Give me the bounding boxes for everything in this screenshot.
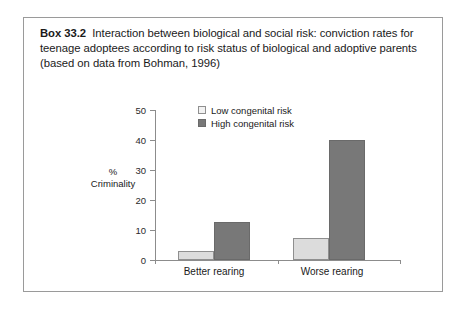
y-axis-line [155,110,156,261]
y-tick-10 [150,230,155,231]
legend-label-high-risk: High congenital risk [211,118,294,129]
y-axis-title-line1: % [78,166,148,178]
bar-better-rearing-low-risk [178,251,214,260]
bar-chart: 0 10 20 30 40 50 Better rearing Worse re… [0,0,465,311]
y-tick-40 [150,140,155,141]
figure-root: Box 33.2 Interaction between biological … [0,0,465,311]
y-tick-30 [150,170,155,171]
y-tick-label-40: 40 [120,135,146,146]
x-tick-mid [278,260,279,264]
y-tick-50 [150,110,155,111]
bar-worse-rearing-high-risk [329,140,365,260]
y-tick-label-20: 20 [120,195,146,206]
bar-worse-rearing-low-risk [293,238,329,260]
legend-item-high-risk: High congenital risk [198,117,294,129]
x-category-label-worse-rearing: Worse rearing [272,266,392,277]
legend-label-low-risk: Low congenital risk [211,105,292,116]
legend-swatch-high-risk-icon [198,119,206,127]
y-tick-label-10: 10 [120,225,146,236]
x-category-label-better-rearing: Better rearing [154,266,274,277]
y-axis-title: % Criminality [78,166,148,190]
legend-item-low-risk: Low congenital risk [198,104,294,116]
y-axis-title-line2: Criminality [78,178,148,190]
chart-legend: Low congenital risk High congenital risk [198,104,294,130]
x-tick-end [400,260,401,264]
legend-swatch-low-risk-icon [198,106,206,114]
y-tick-20 [150,200,155,201]
bar-better-rearing-high-risk [214,222,250,260]
y-tick-label-50: 50 [120,105,146,116]
x-tick-start [155,260,156,264]
y-tick-label-0: 0 [120,255,146,266]
